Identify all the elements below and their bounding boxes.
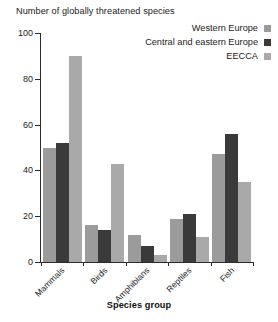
bar-group — [168, 33, 210, 262]
y-tick-label: 60 — [0, 120, 33, 129]
bar — [170, 219, 183, 263]
bar — [212, 154, 225, 262]
x-axis-title: Species group — [0, 300, 278, 310]
bar — [56, 143, 69, 262]
x-axis-line — [40, 262, 253, 263]
bar-group — [83, 33, 125, 262]
bar — [225, 134, 238, 262]
bar-group — [211, 33, 253, 262]
bar-chart: Number of globally threatened species We… — [0, 0, 278, 322]
bar — [98, 230, 111, 262]
bar — [141, 246, 154, 262]
bar — [111, 164, 124, 262]
bar-group — [41, 33, 83, 262]
legend-swatch-icon — [263, 24, 272, 33]
bar — [196, 237, 209, 262]
y-tick-label: 80 — [0, 74, 33, 83]
bar — [154, 255, 167, 262]
bar — [43, 148, 56, 263]
y-tick-mark — [35, 33, 40, 34]
x-axis-label: Reptiles — [165, 266, 193, 294]
y-tick-mark — [35, 125, 40, 126]
bar-groups — [41, 33, 253, 262]
bar — [69, 56, 82, 262]
x-axis-label: Birds — [89, 266, 109, 286]
bar — [183, 214, 196, 262]
bar — [238, 182, 251, 262]
legend-swatch-icon — [263, 52, 272, 61]
y-tick-label: 20 — [0, 212, 33, 221]
y-tick-mark — [35, 216, 40, 217]
y-tick-mark — [35, 79, 40, 80]
y-tick-label: 100 — [0, 29, 33, 38]
legend-swatch-icon — [263, 38, 272, 47]
x-axis-label: Fish — [218, 266, 236, 284]
bar — [85, 225, 98, 262]
y-tick-label: 0 — [0, 258, 33, 267]
x-axis-label: Mammals — [34, 266, 67, 299]
y-tick-mark — [35, 170, 40, 171]
chart-title: Number of globally threatened species — [16, 6, 175, 17]
x-tick-mark — [253, 262, 254, 266]
y-tick-label: 40 — [0, 166, 33, 175]
bar — [128, 235, 141, 262]
y-tick-mark — [35, 262, 40, 263]
bar-group — [126, 33, 168, 262]
